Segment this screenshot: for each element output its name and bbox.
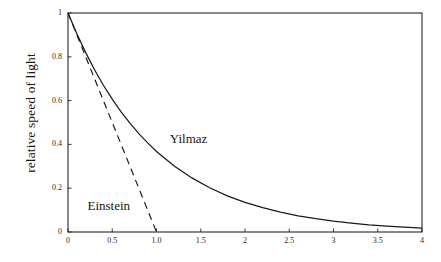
chart-figure: relative speed of light 00.51.01.522.533… xyxy=(0,0,441,262)
x-tick-label: 2.5 xyxy=(269,237,309,245)
x-tick-label: 0 xyxy=(48,237,88,245)
plot-area xyxy=(0,0,441,262)
x-tick-label: 4 xyxy=(402,237,441,245)
x-tick-label: 1.5 xyxy=(181,237,221,245)
x-tick-label: 2 xyxy=(225,237,265,245)
y-tick-label: 0.2 xyxy=(24,184,62,192)
y-tick-label: 0 xyxy=(24,228,62,236)
x-tick-label: 3 xyxy=(314,237,354,245)
series-annotation-yilmaz: Yilmaz xyxy=(170,132,208,145)
y-tick-label: 0.4 xyxy=(24,140,62,148)
y-tick-label: 1 xyxy=(24,9,62,17)
x-tick-label: 0.5 xyxy=(92,237,132,245)
x-tick-label: 1.0 xyxy=(137,237,177,245)
series-annotation-einstein: Einstein xyxy=(87,199,130,212)
y-tick-label: 0.8 xyxy=(24,53,62,61)
x-tick-label: 3.5 xyxy=(358,237,398,245)
y-tick-label: 0.6 xyxy=(24,97,62,105)
